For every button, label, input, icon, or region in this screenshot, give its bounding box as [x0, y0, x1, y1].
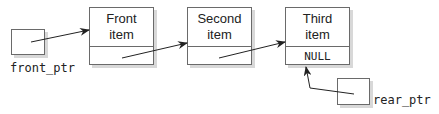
second-to-third-arrow — [219, 42, 285, 58]
front-to-second-arrow — [122, 43, 187, 58]
arrows-layer — [0, 0, 439, 114]
front-ptr-arrow — [31, 30, 89, 42]
rear-ptr-arrow — [306, 67, 354, 94]
